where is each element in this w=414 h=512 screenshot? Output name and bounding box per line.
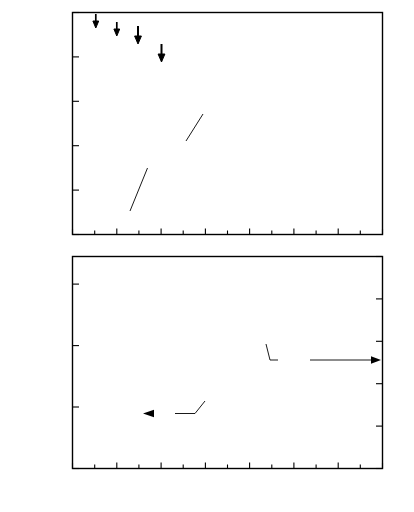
medium-change-arrow-4 <box>158 44 165 62</box>
mu-arrowhead <box>143 410 154 418</box>
bottom-panel-x-ticks <box>73 463 383 469</box>
top-panel-frame <box>73 13 383 235</box>
figure-root <box>0 0 414 512</box>
medium-change-arrow-1 <box>93 14 99 28</box>
top-panel-x-ticks <box>73 229 383 235</box>
glucose-arrowhead <box>371 356 381 364</box>
medium-change-arrow-2 <box>114 22 120 36</box>
bottom-panel <box>19 257 383 469</box>
figure-svg <box>0 0 414 512</box>
top-panel <box>0 0 383 235</box>
glucose-leader <box>266 344 372 360</box>
intracapsular-leader-line <box>130 168 148 211</box>
extracapsular-leader-line <box>186 114 203 141</box>
mu-leader-line <box>175 401 205 414</box>
medium-change-arrows <box>93 14 165 62</box>
top-panel-y-ticks <box>73 13 80 235</box>
medium-change-arrow-3 <box>135 26 142 44</box>
bottom-panel-left-y-ticks <box>73 284 80 468</box>
bottom-panel-frame <box>73 257 383 469</box>
bottom-panel-right-y-ticks <box>376 257 383 469</box>
